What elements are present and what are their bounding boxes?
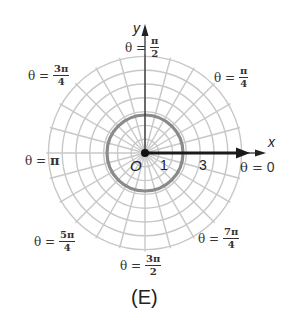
- fraction: 5π 4: [59, 230, 75, 253]
- fraction-den: 4: [228, 239, 235, 250]
- angle-prefix: θ =: [34, 236, 55, 248]
- angle-prefix: θ =: [240, 161, 263, 174]
- origin-point: [141, 149, 149, 157]
- polar-diagram: y x O 1 3 θ = π 2 θ = 3π 4 θ = π 4 θ = π…: [0, 0, 297, 311]
- fraction-den: 4: [64, 242, 71, 253]
- x-axis-label: x: [268, 134, 275, 150]
- angle-prefix: θ =: [214, 72, 235, 84]
- angle-label-3pi-over-2: θ = 3π 2: [120, 254, 161, 277]
- angle-label-pi-over-4: θ = π 4: [214, 66, 248, 89]
- fraction-den: 4: [240, 78, 247, 89]
- angle-prefix: θ =: [125, 42, 146, 54]
- fraction-den: 2: [150, 266, 157, 277]
- angle-label-pi-over-2: θ = π 2: [125, 36, 159, 59]
- fraction-num: 3π: [53, 64, 69, 76]
- grid-radial-line: [120, 58, 146, 153]
- angle-prefix: θ =: [198, 233, 219, 245]
- fraction: 7π 4: [223, 227, 239, 250]
- y-axis-label: y: [133, 20, 140, 36]
- angle-value: π: [50, 154, 60, 167]
- fraction-num: 3π: [145, 254, 161, 266]
- ray-arrow-icon: [236, 148, 250, 159]
- angle-prefix: θ =: [28, 70, 49, 82]
- tick-label-1: 1: [160, 157, 168, 173]
- origin-label: O: [130, 157, 142, 174]
- angle-prefix: θ =: [25, 155, 46, 167]
- fraction-den: 2: [151, 48, 158, 59]
- fraction: 3π 2: [145, 254, 161, 277]
- fraction: π 4: [239, 66, 248, 89]
- fraction: 3π 4: [53, 64, 69, 87]
- angle-label-3pi-over-4: θ = 3π 4: [28, 64, 69, 87]
- grid-radial-line: [145, 128, 240, 154]
- y-axis-arrow-icon: [142, 24, 149, 36]
- tick-label-3: 3: [199, 157, 207, 173]
- angle-label-7pi-over-4: θ = 7π 4: [198, 227, 239, 250]
- angle-value: 0: [267, 160, 275, 174]
- fraction-num: π: [150, 36, 159, 48]
- fraction-num: 7π: [223, 227, 239, 239]
- angle-prefix: θ =: [120, 260, 141, 272]
- x-axis-arrow-icon: [255, 150, 266, 157]
- figure-caption: (E): [131, 286, 158, 309]
- angle-label-zero: θ = 0: [240, 160, 275, 174]
- fraction: π 2: [150, 36, 159, 59]
- grid-radial-line: [50, 128, 145, 154]
- angle-label-5pi-over-4: θ = 5π 4: [34, 230, 75, 253]
- fraction-den: 4: [58, 76, 65, 87]
- grid-radial-line: [145, 58, 171, 153]
- fraction-num: π: [239, 66, 248, 78]
- fraction-num: 5π: [59, 230, 75, 242]
- angle-label-pi: θ = π: [25, 154, 60, 167]
